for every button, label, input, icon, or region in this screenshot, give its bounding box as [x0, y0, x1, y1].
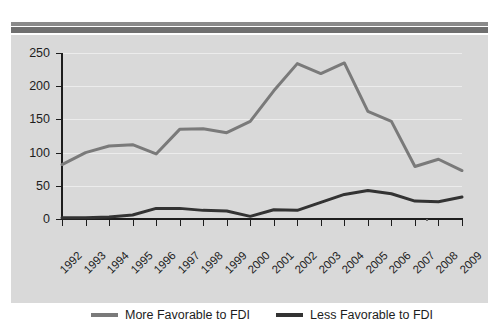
y-tick-label: 250	[29, 46, 50, 60]
x-tick-label: 1997	[175, 249, 202, 276]
y-tick-label: 150	[29, 112, 50, 126]
header-rule-lower	[11, 27, 488, 33]
x-tick	[86, 220, 87, 226]
x-tick	[133, 220, 134, 226]
x-tick-label: 2005	[363, 249, 390, 276]
y-tick-label: 50	[36, 179, 50, 193]
y-tick-label: 100	[29, 146, 50, 160]
series-line-less-favorable	[62, 190, 462, 217]
legend-item-less-favorable[interactable]: Less Favorable to FDI	[276, 308, 433, 322]
x-tick	[180, 220, 181, 226]
series-lines	[62, 53, 462, 219]
x-tick	[203, 220, 204, 226]
series-line-more-favorable	[62, 63, 462, 171]
x-tick-label: 2009	[457, 249, 484, 276]
x-tick-label: 2000	[246, 249, 273, 276]
x-tick	[415, 220, 416, 226]
plot-area: 050100150200250 199219931994199519961997…	[62, 53, 462, 218]
legend-label-more-favorable: More Favorable to FDI	[125, 308, 250, 322]
header-rule-upper	[11, 22, 488, 26]
x-tick	[250, 220, 251, 226]
x-tick	[462, 220, 463, 226]
legend-swatch-less-favorable	[276, 313, 303, 317]
legend-label-less-favorable: Less Favorable to FDI	[310, 308, 433, 322]
x-tick-label: 2007	[410, 249, 437, 276]
x-tick	[156, 220, 157, 226]
x-tick-label: 1994	[104, 249, 131, 276]
x-tick-label: 2001	[269, 249, 296, 276]
x-tick-label: 2006	[387, 249, 414, 276]
stray-mark	[426, 219, 428, 221]
x-tick-label: 1999	[222, 249, 249, 276]
x-tick	[368, 220, 369, 226]
x-tick-label: 2004	[340, 249, 367, 276]
y-tick-label: 200	[29, 79, 50, 93]
x-tick-label: 1998	[199, 249, 226, 276]
x-tick-label: 1993	[81, 249, 108, 276]
x-tick	[391, 220, 392, 226]
legend-item-more-favorable[interactable]: More Favorable to FDI	[91, 308, 250, 322]
x-tick	[344, 220, 345, 226]
x-tick-label: 2002	[293, 249, 320, 276]
x-tick	[297, 220, 298, 226]
x-tick	[227, 220, 228, 226]
x-tick-label: 2008	[434, 249, 461, 276]
x-tick	[438, 220, 439, 226]
x-tick	[274, 220, 275, 226]
x-tick-label: 1995	[128, 249, 155, 276]
x-tick-label: 1996	[152, 249, 179, 276]
x-tick	[62, 220, 63, 226]
chart-legend: More Favorable to FDI Less Favorable to …	[107, 303, 417, 323]
x-tick-label: 2003	[316, 249, 343, 276]
legend-swatch-more-favorable	[91, 313, 118, 317]
x-tick	[109, 220, 110, 226]
x-axis-tick-labels: 1992199319941995199619971998199920002001…	[62, 231, 462, 291]
x-tick-label: 1992	[57, 249, 84, 276]
chart-panel: 050100150200250 199219931994199519961997…	[11, 35, 488, 303]
x-tick	[321, 220, 322, 226]
y-tick-label: 0	[43, 212, 50, 226]
